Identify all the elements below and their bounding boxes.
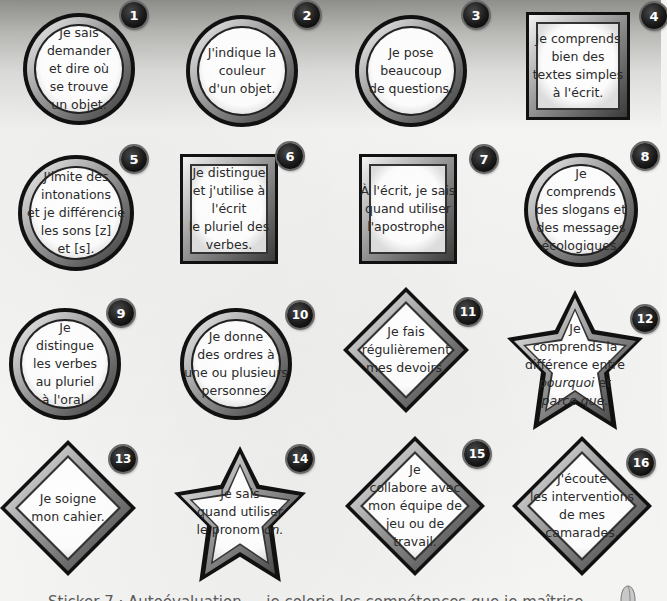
skill-text-line: une ou plusieurs [184, 364, 288, 382]
pencil-icon [618, 584, 638, 601]
skill-text-line: Je comprends [536, 30, 621, 48]
number-badge-14: 14 [287, 446, 313, 472]
skill-text-line: des slogans et [536, 201, 626, 219]
skill-text-line: écologiques. [542, 237, 621, 255]
skill-text-line: se trouve [50, 78, 109, 96]
number-badge-4: 4 [641, 3, 667, 29]
skill-text-line: jeu ou de [386, 515, 444, 533]
skill-text-line: le pluriel des [189, 218, 269, 236]
skill-text-line: camarades. [545, 524, 618, 542]
skill-text-line: Je pose [388, 44, 433, 62]
skill-card-2: J'indique la couleur d'un objet. [183, 12, 301, 130]
skill-card-7: À l'écrit, je sais quand utiliser l'apos… [359, 154, 457, 264]
skill-text-line: des messages [537, 219, 626, 237]
skill-text-line: J'indique la [208, 44, 277, 62]
skill-text-line: de questions. [369, 80, 453, 98]
skill-text-line: Je fais [387, 323, 424, 341]
number-badge-11: 11 [455, 299, 481, 325]
skill-text-line: régulièrement [362, 341, 450, 359]
skill-card-6: Je distingue et j'utilise à l'écrit le p… [180, 154, 278, 264]
skill-text-line: Je distingue [192, 164, 265, 182]
skill-card-11: Je fais régulièrement mes devoirs. [343, 287, 469, 413]
number-badge-7: 7 [471, 146, 497, 172]
skill-text-line: demander [47, 42, 111, 60]
number-badge-12: 12 [632, 306, 658, 332]
skill-text-line: au pluriel [36, 373, 95, 391]
skill-text-line: mes devoirs. [366, 359, 446, 377]
skill-text-fragment: le pronom [197, 522, 264, 537]
number-badge-10: 10 [287, 302, 313, 328]
skill-text-line: Je sais [59, 24, 99, 42]
skill-text-line: textes simples [533, 66, 624, 84]
skill-text-line: Je soigne [40, 490, 97, 508]
skill-text-line: bien des [551, 48, 604, 66]
skill-card-9: Je distingue les verbes au pluriel à l'o… [6, 305, 124, 423]
italic-word: pourquoi [539, 375, 595, 390]
number-badge-5: 5 [121, 146, 147, 172]
skill-card-5: J'imite des intonations et je différenci… [15, 152, 137, 274]
skill-text-line: à l'oral. [42, 391, 88, 409]
italic-word: parce que. [542, 393, 609, 408]
number-badge-9: 9 [108, 300, 134, 326]
skill-text-line: et j'utilise à [193, 182, 266, 200]
skill-text-line: intonations [41, 186, 111, 204]
number-badge-1: 1 [121, 2, 147, 28]
skill-text-line: J'imite des [44, 168, 109, 186]
skill-card-3: Je pose beaucoup de questions. [352, 12, 470, 130]
skill-text-line: quand utiliser [365, 200, 451, 218]
skill-text-line: travail. [393, 533, 437, 551]
skill-text-line: couleur [219, 62, 266, 80]
skill-text-line: des ordres à [197, 346, 274, 364]
skill-text-line: mon cahier. [31, 508, 104, 526]
skill-text-line: différence entre [525, 356, 625, 374]
number-badge-15: 15 [464, 441, 490, 467]
skill-text-line: pourquoi et [539, 374, 611, 392]
skill-text-line: de mes [559, 506, 605, 524]
bottom-caption: Sticker 7 · Autoévaluation — je colorie … [48, 592, 608, 601]
skill-text-line: l'écrit [212, 200, 247, 218]
skill-text-line: le pronom on. [197, 521, 284, 539]
skill-card-12: Je comprends la différence entre pourquo… [505, 290, 645, 430]
skill-text-line: Je donne [209, 328, 263, 346]
skill-text-line: distingue [36, 337, 94, 355]
skill-text-line: à l'écrit. [553, 84, 604, 102]
number-badge-2: 2 [294, 2, 320, 28]
skill-text-line: personnes. [202, 382, 271, 400]
skill-text-line: Je [59, 319, 70, 337]
skill-text-line: Je [569, 320, 580, 338]
number-badge-13: 13 [110, 446, 136, 472]
skill-text-line: l'apostrophe. [367, 218, 449, 236]
number-badge-6: 6 [277, 143, 303, 169]
number-badge-8: 8 [632, 143, 658, 169]
skill-text-line: mon équipe de [368, 497, 462, 515]
skill-text-line: Je sais [220, 485, 260, 503]
skill-text-line: et dire où [49, 60, 109, 78]
skill-text-fragment: et [595, 375, 612, 390]
skill-text-line: comprends [546, 183, 616, 201]
skill-text-line: verbes. [206, 236, 252, 254]
skill-text-line: J'écoute [557, 470, 607, 488]
skill-text-line: À l'écrit, je sais [361, 182, 456, 200]
italic-word: on. [264, 522, 284, 537]
number-badge-3: 3 [463, 2, 489, 28]
skill-text-line: les interventions [530, 488, 634, 506]
skill-card-8: Je comprends des slogans et des messages… [521, 150, 641, 270]
skill-text-line: et je différencie [27, 204, 125, 222]
number-badge-16: 16 [628, 450, 654, 476]
skill-text-line: les verbes [33, 355, 97, 373]
skill-text-line: collabore avec [370, 479, 461, 497]
skill-card-1: Je sais demander et dire où se trouve un… [20, 10, 138, 128]
skill-text-line: Je [575, 165, 586, 183]
skill-card-14: Je sais quand utiliser le pronom on. [172, 446, 308, 582]
skill-text-line: beaucoup [380, 62, 442, 80]
skill-card-10: Je donne des ordres à une ou plusieurs p… [177, 305, 295, 423]
skill-text-line: Je [409, 461, 420, 479]
skill-text-line: quand utiliser [197, 503, 283, 521]
skill-card-4: Je comprends bien des textes simples à l… [526, 12, 630, 120]
caption-text: Sticker 7 · Autoévaluation — je colorie … [48, 592, 608, 601]
skill-text-line: comprends la [533, 338, 618, 356]
skill-text-line: les sons [z] [41, 222, 112, 240]
skill-text-line: un objet. [51, 96, 106, 114]
skill-text-line: et [s]. [58, 240, 95, 258]
skill-text-line: d'un objet. [209, 80, 276, 98]
